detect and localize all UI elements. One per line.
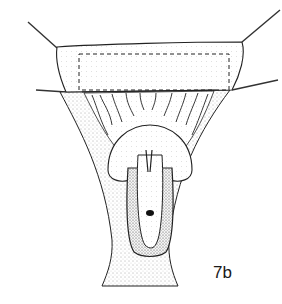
anatomical-illustration: [0, 0, 282, 304]
retracted-flap: [57, 42, 244, 92]
figure-label: 7b: [213, 263, 232, 283]
